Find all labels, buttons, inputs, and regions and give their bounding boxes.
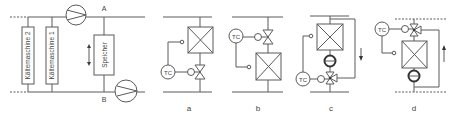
variant-a-label: a [187,104,192,113]
variant-c-label: c [329,104,333,113]
heat-exchanger-icon [317,24,343,50]
hydraulic-schematic-figure: Kältemaschine 2 Kältemaschine 1 Speicher… [0,0,457,118]
variant-b-label: b [256,104,261,113]
variant-b: TC b [229,17,283,113]
chiller-1: Kältemaschine 1 [46,27,58,84]
actuator-icon [188,69,195,76]
pump-icon [409,71,420,82]
three-way-valve-icon [326,72,337,84]
three-way-valve-icon [410,24,421,36]
storage-tank: Speicher [94,35,114,75]
svg-text:TC: TC [232,34,241,40]
variant-a: TC a [161,17,213,113]
temperature-controller: TC [296,72,310,86]
temperature-controller: TC [229,29,243,43]
temperature-controller: TC [375,22,389,36]
heat-exchanger-icon [188,27,213,53]
storage-label: Speicher [101,41,109,67]
sensor-icon [309,34,313,38]
bidirectional-arrow-icon [87,44,91,66]
node-b-label: B [102,96,107,103]
variant-d: TC d [375,19,446,113]
pump-icon-bottom [115,80,137,102]
actuator-icon [255,34,262,41]
svg-text:TC: TC [164,70,173,76]
heat-exchanger-icon [256,53,281,80]
sensor-icon [247,65,251,69]
svg-text:TC: TC [378,27,387,33]
variant-d-label: d [412,104,416,113]
variant-c: TC c [296,16,363,113]
sensor-icon [392,51,396,55]
actuator-icon [318,76,325,83]
chiller-1-label: Kältemaschine 1 [48,31,55,79]
sensor-icon [180,40,184,44]
actuator-icon [402,26,409,33]
heat-exchanger-icon [402,41,427,68]
pump-icon [325,56,336,67]
flow-direction-up-arrow-icon [442,45,446,62]
chiller-2: Kältemaschine 2 [22,27,34,84]
system-overview: Kältemaschine 2 Kältemaschine 1 Speicher… [10,5,145,103]
flow-direction-down-arrow-icon [359,48,363,61]
pump-icon-top [66,5,86,25]
temperature-controller: TC [161,65,175,79]
chiller-2-label: Kältemaschine 2 [24,31,31,79]
node-a-label: A [102,5,107,12]
svg-text:TC: TC [299,77,308,83]
